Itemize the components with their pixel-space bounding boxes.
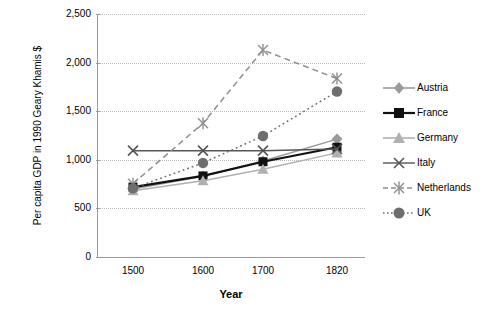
legend-item-austria[interactable]: Austria <box>381 75 485 100</box>
legend-label-uk: UK <box>417 207 431 218</box>
plot-area <box>97 14 365 258</box>
gridline-500 <box>98 208 365 209</box>
ytick-mark-500 <box>96 208 100 209</box>
legend-label-italy: Italy <box>417 157 435 168</box>
ytick-mark-1500 <box>96 111 100 112</box>
ytick-mark-2000 <box>96 63 100 64</box>
legend-symbol-germany <box>381 129 417 147</box>
xtick-label-1600: 1600 <box>173 266 233 276</box>
gridline-1500 <box>98 111 365 112</box>
gridline-1000 <box>98 160 365 161</box>
x-axis-label: Year <box>97 288 365 300</box>
legend-symbol-france <box>381 104 417 122</box>
ytick-mark-0 <box>96 257 100 258</box>
legend-label-austria: Austria <box>417 82 448 93</box>
chart-container: 2,500 2,000 1,500 1,000 500 0 1500 1600 … <box>0 0 487 313</box>
ytick-mark-2500 <box>96 14 100 15</box>
legend-symbol-uk <box>381 204 417 222</box>
legend-item-netherlands[interactable]: Netherlands <box>381 175 485 200</box>
legend-item-uk[interactable]: UK <box>381 200 485 225</box>
ytick-mark-1000 <box>96 160 100 161</box>
legend-item-italy[interactable]: Italy <box>381 150 485 175</box>
ytick-label-2500: 2,500 <box>27 9 91 19</box>
legend-item-germany[interactable]: Germany <box>381 125 485 150</box>
legend-symbol-netherlands <box>381 179 417 197</box>
legend-label-germany: Germany <box>417 132 458 143</box>
legend-label-france: France <box>417 107 448 118</box>
xtick-label-1700: 1700 <box>233 266 293 276</box>
legend-symbol-italy <box>381 154 417 172</box>
legend-label-netherlands: Netherlands <box>417 182 471 193</box>
legend-item-france[interactable]: France <box>381 100 485 125</box>
xtick-label-1500: 1500 <box>103 266 163 276</box>
gridline-2500 <box>98 14 365 15</box>
y-axis-label: Per capita GDP in 1990 Geary Khamis $ <box>32 26 43 246</box>
gridline-2000 <box>98 63 365 64</box>
legend-symbol-austria <box>381 79 417 97</box>
ytick-label-0: 0 <box>27 252 91 262</box>
xtick-label-1820: 1820 <box>307 266 367 276</box>
legend: Austria France Germany Italy <box>381 75 485 225</box>
